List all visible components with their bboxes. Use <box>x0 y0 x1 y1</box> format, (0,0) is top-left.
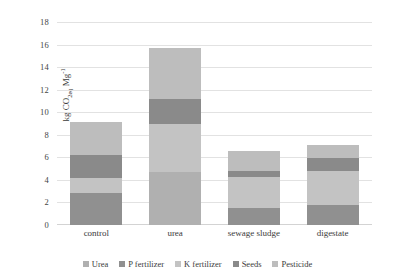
legend-label: P fertilizer <box>128 259 164 269</box>
gridline <box>57 22 372 23</box>
legend-swatch-icon <box>272 261 278 267</box>
stacked-bar[interactable] <box>228 151 280 225</box>
gridline <box>57 90 372 91</box>
stacked-bar[interactable] <box>307 145 359 225</box>
stacked-bar[interactable] <box>70 122 122 225</box>
legend-item[interactable]: Pesticide <box>272 259 312 269</box>
y-axis-tick-label: 18 <box>25 17 49 27</box>
chart-legend: UreaP fertilizerK fertilizerSeedsPestici… <box>0 259 395 269</box>
legend-label: Urea <box>92 259 109 269</box>
y-axis-tick-label: 14 <box>25 62 49 72</box>
bar-segment[interactable] <box>149 172 201 225</box>
y-axis-tick-label: 12 <box>25 85 49 95</box>
legend-item[interactable]: P fertilizer <box>119 259 164 269</box>
bar-segment[interactable] <box>228 177 280 209</box>
y-axis-tick-label: 4 <box>25 175 49 185</box>
bar-segment[interactable] <box>70 122 122 155</box>
bar-segment[interactable] <box>307 158 359 170</box>
y-axis-tick-label: 16 <box>25 40 49 50</box>
legend-label: K fertilizer <box>184 259 222 269</box>
legend-swatch-icon <box>175 261 181 267</box>
x-axis-tick-label: digestate <box>317 228 349 238</box>
x-axis-tick-label: sewage sludge <box>228 228 280 238</box>
y-axis-tick-label: 8 <box>25 130 49 140</box>
y-axis-tick-label: 0 <box>25 220 49 230</box>
bar-segment[interactable] <box>228 151 280 171</box>
bar-segment[interactable] <box>307 205 359 225</box>
bar-segment[interactable] <box>149 99 201 124</box>
bar-segment[interactable] <box>70 155 122 178</box>
bar-segment[interactable] <box>149 48 201 99</box>
bar-segment[interactable] <box>307 145 359 159</box>
x-axis-tick-label: urea <box>167 228 183 238</box>
bar-segment[interactable] <box>307 171 359 205</box>
chart-figure: kg CO2eq Mg-1 024681012141618 controlure… <box>0 0 395 279</box>
gridline <box>57 112 372 113</box>
legend-label: Seeds <box>242 259 262 269</box>
gridline <box>57 45 372 46</box>
bar-segment[interactable] <box>149 124 201 172</box>
y-axis-tick-label: 2 <box>25 197 49 207</box>
legend-item[interactable]: K fertilizer <box>175 259 222 269</box>
legend-swatch-icon <box>83 261 89 267</box>
bar-segment[interactable] <box>70 178 122 194</box>
legend-item[interactable]: Seeds <box>233 259 262 269</box>
y-axis-ticks: 024681012141618 <box>25 22 51 225</box>
gridline <box>57 67 372 68</box>
legend-label: Pesticide <box>281 259 312 269</box>
y-axis-tick-label: 10 <box>25 107 49 117</box>
y-axis-tick-label: 6 <box>25 152 49 162</box>
x-axis-labels: controlureasewage sludgedigestate <box>57 228 372 244</box>
plot-area <box>57 22 372 225</box>
legend-item[interactable]: Urea <box>83 259 109 269</box>
x-axis-tick-label: control <box>84 228 110 238</box>
bar-segment[interactable] <box>228 208 280 225</box>
legend-swatch-icon <box>233 261 239 267</box>
bar-segment[interactable] <box>70 193 122 225</box>
legend-swatch-icon <box>119 261 125 267</box>
stacked-bar[interactable] <box>149 48 201 225</box>
